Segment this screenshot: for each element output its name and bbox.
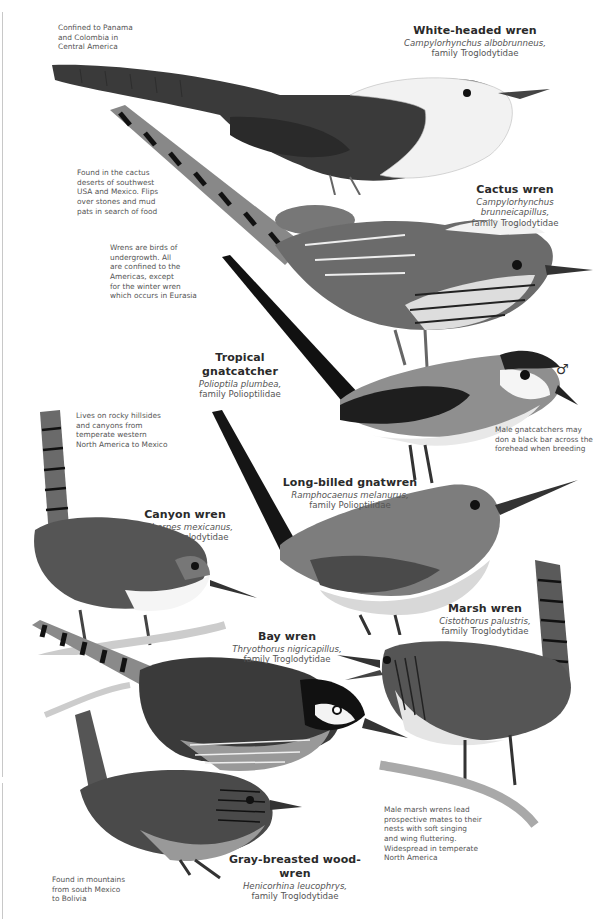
common-name: Cactus wren (445, 183, 585, 197)
family-name: family Troglodytidae (445, 218, 585, 229)
species-label-canyon-wren: Canyon wren Catherpes mexicanus, family … (130, 508, 240, 543)
common-name: White-headed wren (390, 24, 560, 38)
scientific-name: Campylorhynchus albobrunneus, (390, 38, 560, 49)
species-label-tropical-gnatcatcher: Tropical gnatcatcher Polioptila plumbea,… (185, 351, 295, 400)
note-canyon-wren: Lives on rocky hillsides and canyons fro… (76, 411, 167, 450)
note-marsh-wren: Male marsh wrens lead prospective mates … (384, 805, 482, 863)
note-wrens-general: Wrens are birds of undergrowth. All are … (110, 243, 197, 301)
note-white-headed-wren: Confined to Panama and Colombia in Centr… (58, 23, 133, 52)
common-name: Tropical gnatcatcher (185, 351, 295, 379)
species-label-white-headed-wren: White-headed wren Campylorhynchus albobr… (390, 24, 560, 59)
species-label-marsh-wren: Marsh wren Cistothorus palustris, family… (430, 602, 540, 637)
scientific-name: Polioptila plumbea, (185, 379, 295, 390)
family-name: family Polioptilidae (280, 500, 420, 511)
scientific-name: Ramphocaenus melanurus, (280, 490, 420, 501)
species-label-bay-wren: Bay wren Thryothorus nigricapillus, fami… (232, 630, 342, 665)
common-name: Long-billed gnatwren (280, 476, 420, 490)
common-name: Marsh wren (430, 602, 540, 616)
margin-rule-bottom (2, 783, 3, 919)
note-cactus-wren: Found in the cactus deserts of southwest… (77, 168, 158, 216)
note-gnatcatcher: Male gnatcatchers may don a black bar ac… (495, 425, 593, 454)
margin-rule-top (2, 12, 3, 777)
family-name: family Troglodytidae (232, 654, 342, 665)
scientific-name: Thryothorus nigricapillus, (232, 644, 342, 655)
species-label-long-billed-gnatwren: Long-billed gnatwren Ramphocaenus melanu… (280, 476, 420, 511)
common-name: Canyon wren (130, 508, 240, 522)
common-name: Bay wren (232, 630, 342, 644)
male-symbol: ♂ (556, 361, 569, 377)
species-label-cactus-wren: Cactus wren Campylorhynchus brunneicapil… (445, 183, 585, 229)
scientific-name: Cistothorus palustris, (430, 616, 540, 627)
common-name: Gray-breasted wood-wren (215, 853, 375, 881)
family-name: family Troglodytidae (430, 626, 540, 637)
family-name: family Polioptilidae (185, 389, 295, 400)
scientific-name: Campylorhynchus brunneicapillus, (445, 197, 585, 218)
note-wood-wren: Found in mountains from south Mexico to … (52, 875, 125, 904)
scientific-name: Henicorhina leucophrys, (215, 881, 375, 892)
family-name: family Troglodytidae (390, 48, 560, 59)
species-label-gray-breasted-wood-wren: Gray-breasted wood-wren Henicorhina leuc… (215, 853, 375, 902)
family-name: family Troglodytidae (215, 891, 375, 902)
scientific-name: Catherpes mexicanus, (130, 522, 240, 533)
family-name: family Troglodytidae (130, 532, 240, 543)
